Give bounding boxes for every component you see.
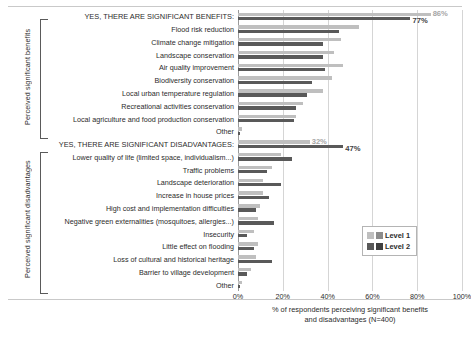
bar-level-2 [238, 93, 307, 96]
row-label: Lower quality of life (limited space, in… [73, 152, 234, 161]
row-label: Landscape conservation [156, 50, 234, 59]
chart-row-header: YES, THERE ARE SIGNIFICANT DISADVANTAGES… [238, 138, 462, 151]
row-label: Barrier to village development [139, 267, 234, 276]
x-tick-label: 100% [453, 292, 471, 301]
top-divider [8, 6, 462, 7]
legend-item-level-2[interactable]: Level 2 [367, 241, 410, 252]
row-label: Biodiversity conservation [155, 76, 235, 85]
bar-level-1 [238, 179, 263, 182]
chart-row: Barrier to village development [238, 265, 462, 278]
bar-level-1 [238, 140, 310, 143]
legend-label-level-2: Level 2 [385, 242, 410, 251]
gridline-100 [462, 10, 463, 291]
group-axis-title-benefits: Perceived significant benefits [23, 14, 32, 139]
bar-level-1 [238, 166, 272, 169]
bar-level-2 [238, 170, 267, 173]
bar-level-2 [238, 247, 254, 250]
chart-row: Other [238, 278, 462, 291]
bar-level-1 [238, 89, 323, 92]
bar-level-1 [238, 217, 258, 220]
row-label: Climate change mitigation [151, 37, 234, 46]
chart-row: High cost and implementation difficultie… [238, 202, 462, 215]
row-label: Other [216, 127, 234, 136]
row-label: YES, THERE ARE SIGNIFICANT DISADVANTAGES… [59, 140, 234, 149]
chart-row: Recreational activities conservation [238, 99, 462, 112]
bar-level-1 [238, 204, 260, 207]
x-tick-label: 0% [233, 292, 243, 301]
x-axis-title-line1: % of respondents perceiving significant … [238, 305, 462, 315]
bar-level-1 [238, 230, 254, 233]
row-label: Local agriculture and food production co… [73, 114, 234, 123]
legend-swatch-icon-level-2-light [367, 243, 374, 250]
bracket-disadvantages [40, 152, 48, 294]
chart-row-header: YES, THERE ARE SIGNIFICANT BENEFITS:86%7… [238, 10, 462, 23]
x-axis-title: % of respondents perceiving significant … [238, 305, 462, 325]
x-axis: 0%20%40%60%80%100% [238, 291, 462, 303]
bar-level-2 [238, 68, 325, 71]
legend-label-level-1: Level 1 [385, 231, 410, 240]
chart-row: Local urban temperature regulation [238, 87, 462, 100]
row-label: Loss of cultural and historical heritage [113, 255, 234, 264]
bracket-benefits [40, 19, 48, 139]
chart-row: Landscape conservation [238, 48, 462, 61]
bar-level-2 [238, 42, 323, 45]
bar-level-1 [238, 255, 256, 258]
bar-level-2 [238, 183, 281, 186]
bar-level-2 [238, 132, 240, 135]
bar-level-1 [238, 115, 296, 118]
row-label: Air quality improvement [159, 63, 234, 72]
chart-row: Increase in house prices [238, 189, 462, 202]
chart-row: Local agriculture and food production co… [238, 112, 462, 125]
bar-level-2 [238, 145, 343, 148]
bar-level-2 [238, 119, 294, 122]
bar-level-1 [238, 268, 251, 271]
bar-level-2 [238, 196, 269, 199]
row-label: Increase in house prices [156, 191, 234, 200]
bar-level-1 [238, 51, 334, 54]
bar-level-2 [238, 55, 323, 58]
bar-level-1 [238, 13, 431, 16]
bar-level-1 [238, 153, 281, 156]
bar-level-1 [238, 102, 303, 105]
row-label: Little effect on flooding [162, 242, 234, 251]
chart-row: Insecurity [238, 227, 462, 240]
row-label: YES, THERE ARE SIGNIFICANT BENEFITS: [84, 12, 234, 21]
bar-level-1 [238, 38, 341, 41]
bar-level-2 [238, 260, 272, 263]
legend-item-level-1[interactable]: Level 1 [367, 230, 410, 241]
x-axis-title-line2: and disadvantages (N=400) [238, 315, 462, 325]
bar-level-2 [238, 221, 274, 224]
row-label: Recreational activities conservation [121, 101, 234, 110]
plot-area: YES, THERE ARE SIGNIFICANT BENEFITS:86%7… [238, 10, 462, 291]
row-label: Negative green externalities (mosquitoes… [65, 216, 234, 225]
legend-swatch-icon-level-1-dark [376, 232, 383, 239]
chart-row: Negative green externalities (mosquitoes… [238, 214, 462, 227]
bar-level-2 [238, 285, 240, 288]
chart-row: Other [238, 125, 462, 138]
x-tick-label: 80% [410, 292, 424, 301]
group-axis-title-disadvantages: Perceived significant disadvantages [23, 145, 32, 293]
data-label-level-1: 32% [312, 136, 327, 145]
bar-level-2 [238, 17, 410, 20]
bar-level-2 [238, 208, 256, 211]
bar-level-1 [238, 191, 263, 194]
row-label: Other [216, 280, 234, 289]
chart-row: Little effect on flooding [238, 240, 462, 253]
chart-row: Landscape deterioration [238, 176, 462, 189]
chart-row: Traffic problems [238, 163, 462, 176]
bar-level-1 [238, 25, 359, 28]
legend-swatch-icon-level-2-dark [376, 243, 383, 250]
legend-swatch-icon-level-1-light [367, 232, 374, 239]
x-tick-label: 60% [365, 292, 379, 301]
row-label: High cost and implementation difficultie… [106, 203, 234, 212]
bar-level-1 [238, 127, 242, 130]
bar-level-1 [238, 281, 242, 284]
bar-level-2 [238, 106, 296, 109]
data-label-level-1: 86% [433, 8, 448, 17]
chart-row: Air quality improvement [238, 61, 462, 74]
chart-row: Lower quality of life (limited space, in… [238, 151, 462, 164]
bar-level-2 [238, 157, 292, 160]
bar-level-2 [238, 272, 247, 275]
chart-row: Climate change mitigation [238, 36, 462, 49]
